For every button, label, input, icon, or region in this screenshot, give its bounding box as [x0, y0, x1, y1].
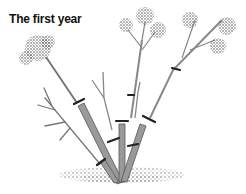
- shrub-illustration: [0, 0, 246, 194]
- left-flower-stem: [19, 35, 77, 103]
